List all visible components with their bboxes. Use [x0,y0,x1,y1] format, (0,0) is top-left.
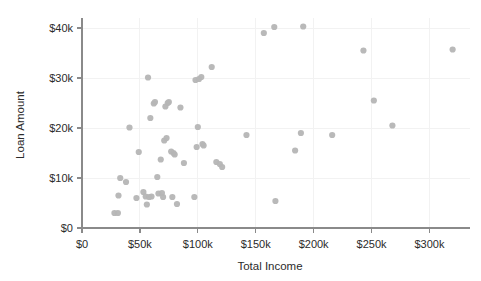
data-point [126,124,132,130]
data-point [360,47,366,53]
data-point [181,160,187,166]
y-tick-label: $10k [49,172,73,184]
y-tick-label: $20k [49,122,73,134]
data-point [300,23,306,29]
data-point [136,149,142,155]
x-tick-label: $250k [357,238,387,250]
x-tick-label: $200k [299,238,329,250]
data-point [152,99,158,105]
data-point [115,210,121,216]
data-point [209,64,215,70]
data-point [450,46,456,52]
data-point [219,164,225,170]
data-point [169,194,175,200]
data-point [272,198,278,204]
data-point [177,104,183,110]
data-point [172,151,178,157]
data-point [298,130,304,136]
data-points-layer [111,23,455,216]
data-point [191,194,197,200]
data-point [163,135,169,141]
data-point [174,201,180,207]
scatter-chart: $0$50k$100k$150k$200k$250k$300k $0$10k$2… [0,0,481,281]
data-point [147,115,153,121]
data-point [158,156,164,162]
gridlines [82,18,470,228]
chart-canvas: $0$50k$100k$150k$200k$250k$300k $0$10k$2… [0,0,481,281]
data-point [160,194,166,200]
x-tick-label: $300k [414,238,444,250]
data-point [198,74,204,80]
data-point [243,132,249,138]
y-tick-label: $0 [61,222,73,234]
data-point [201,142,207,148]
data-point [389,122,395,128]
data-point [329,132,335,138]
x-tick-label: $150k [241,238,271,250]
data-point [133,195,139,201]
data-point [271,24,277,30]
data-point [194,144,200,150]
data-point [148,193,154,199]
x-tick-label: $100k [183,238,213,250]
data-point [166,99,172,105]
data-point [144,201,150,207]
data-point [154,174,160,180]
y-axis-ticks: $0$10k$20k$30k$40k [49,22,82,234]
data-point [123,179,129,185]
data-point [371,97,377,103]
data-point [145,74,151,80]
x-axis-title: Total Income [237,260,302,272]
y-axis-title: Loan Amount [14,90,26,159]
x-tick-label: $0 [76,238,88,250]
x-tick-label: $50k [128,238,152,250]
data-point [292,147,298,153]
data-point [261,30,267,36]
y-tick-label: $30k [49,72,73,84]
data-point [117,175,123,181]
data-point [115,192,121,198]
y-tick-label: $40k [49,22,73,34]
x-axis-ticks: $0$50k$100k$150k$200k$250k$300k [76,228,445,250]
data-point [195,124,201,130]
